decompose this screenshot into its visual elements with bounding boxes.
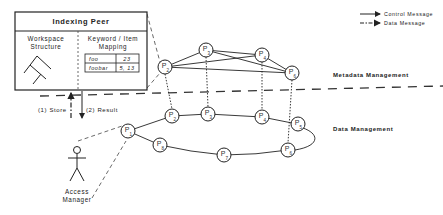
mapping-row-items: 5, 13 bbox=[119, 65, 135, 71]
diagram-canvas: Indexing Peer Workspace Structure Keywor… bbox=[0, 0, 443, 215]
mapping-row-items: 23 bbox=[122, 56, 131, 62]
workspace-heading-2: Structure bbox=[31, 43, 62, 50]
indexing-peer-title: Indexing Peer bbox=[53, 17, 110, 26]
data-node-p2[interactable]: P 2 bbox=[165, 109, 179, 123]
data-node-p5[interactable]: P 5 bbox=[291, 117, 305, 131]
workspace-heading-1: Workspace bbox=[28, 35, 65, 43]
store-label: (1) Store bbox=[38, 107, 67, 113]
mapping-row-keyword: foo bbox=[89, 56, 98, 62]
metadata-node-p6[interactable]: P 6 bbox=[285, 66, 299, 80]
data-node-p8[interactable]: P 8 bbox=[153, 138, 167, 152]
result-label: (2) Result bbox=[86, 107, 118, 113]
indexing-peer-box: Indexing Peer Workspace Structure Keywor… bbox=[15, 12, 147, 90]
actor-zoom-line-bottom bbox=[92, 141, 126, 198]
actor-zoom-line-top bbox=[78, 126, 122, 141]
legend: Control Message Data Message bbox=[360, 11, 433, 26]
metadata-node-p3[interactable]: P 3 bbox=[199, 43, 213, 57]
zoom-line-bottom bbox=[147, 73, 160, 88]
access-manager-actor-icon bbox=[68, 147, 86, 182]
metadata-management-label: Metadata Management bbox=[333, 72, 409, 78]
legend-control-label: Control Message bbox=[384, 11, 433, 17]
actor-label-1: Access bbox=[65, 188, 89, 195]
data-node-p3[interactable]: P 3 bbox=[201, 107, 215, 121]
metadata-node-p2[interactable]: P 2 bbox=[158, 60, 172, 74]
mapping-heading-1: Keyword / Item bbox=[88, 35, 138, 43]
data-node-p6[interactable]: P 6 bbox=[281, 143, 295, 157]
metadata-ring-edges bbox=[165, 50, 292, 73]
zoom-line-top bbox=[147, 14, 160, 62]
mapping-row-keyword: foobar bbox=[89, 65, 109, 71]
legend-data-label: Data Message bbox=[384, 20, 425, 26]
mapping-table: foo 23 foobar 5, 13 bbox=[85, 54, 139, 72]
data-node-p4[interactable]: P 4 bbox=[255, 110, 269, 124]
metadata-node-p4[interactable]: P 4 bbox=[255, 48, 269, 62]
data-management-label: Data Management bbox=[333, 126, 393, 132]
data-node-p1[interactable]: P 1 bbox=[121, 124, 135, 138]
mapping-heading-2: Mapping bbox=[99, 43, 127, 51]
data-node-p7[interactable]: P 7 bbox=[217, 148, 231, 162]
actor-label-2: Manager bbox=[62, 196, 91, 204]
